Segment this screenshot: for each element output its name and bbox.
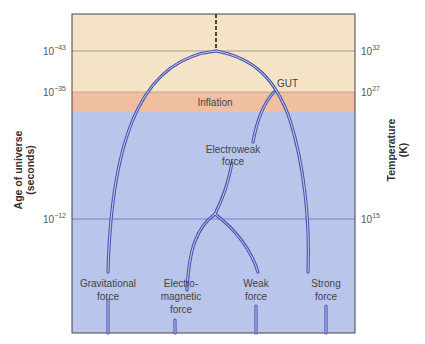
gravitational-force-label: Gravitational — [80, 278, 136, 289]
electroweak-label: Electroweak — [206, 144, 261, 155]
gravitational-force-label-2: force — [97, 291, 120, 302]
strong-force-label-2: force — [315, 291, 338, 302]
svg-text:(K): (K) — [397, 143, 409, 158]
electroweak-label-2: force — [222, 156, 245, 167]
electromagnetic-force-label-3: force — [170, 304, 193, 315]
left-tick-1e-35: 10−35 — [43, 85, 66, 98]
left-axis-title: Age of universe (seconds) — [12, 130, 36, 209]
weak-force-label: Weak — [243, 278, 269, 289]
left-tick-1e-12: 10−12 — [43, 212, 66, 225]
svg-text:Age of universe: Age of universe — [12, 130, 24, 209]
force-unification-diagram: 10−43 10−35 10−12 1032 1027 1015 Age of … — [0, 0, 425, 344]
planck-era-band — [72, 14, 355, 92]
inflation-label: Inflation — [197, 97, 232, 108]
electromagnetic-force-label: Electro- — [164, 278, 198, 289]
right-tick-1e32: 1032 — [361, 44, 380, 57]
gut-label: GUT — [277, 78, 298, 89]
strong-force-label: Strong — [311, 278, 340, 289]
svg-text:Temperature: Temperature — [385, 118, 397, 181]
left-tick-1e-43: 10−43 — [43, 44, 66, 57]
svg-text:(seconds): (seconds) — [24, 145, 36, 195]
right-tick-1e27: 1027 — [361, 85, 380, 98]
weak-force-label-2: force — [245, 291, 268, 302]
right-tick-1e15: 1015 — [361, 212, 380, 225]
right-axis-title: Temperature (K) — [385, 118, 409, 181]
electromagnetic-force-label-2: magnetic — [161, 291, 202, 302]
